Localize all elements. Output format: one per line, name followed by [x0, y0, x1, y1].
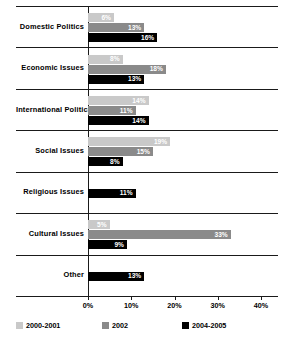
x-axis-tick [175, 296, 176, 300]
category-label: Cultural Issues [16, 230, 84, 237]
legend-item-2002[interactable]: 2002 [102, 322, 128, 329]
category-label: Domestic Politics [16, 23, 84, 30]
category-label: International Politics [16, 106, 84, 113]
bar-value-label: 14% [132, 117, 145, 124]
bar-2004-2005: 13% [88, 75, 144, 84]
x-axis-tick [261, 296, 262, 300]
bar-value-label: 5% [97, 222, 107, 229]
chart-row: Cultural Issues5%33%9% [16, 213, 278, 254]
legend-swatch [16, 322, 23, 329]
chart-row: Religious Issues11% [16, 172, 278, 213]
x-axis-tick-label: 10% [124, 302, 138, 309]
chart-row: Social Issues19%15%8% [16, 130, 278, 171]
x-axis-line [16, 296, 278, 297]
chart-row: Economic Issues8%18%13% [16, 47, 278, 88]
bar-2002: 13% [88, 23, 144, 32]
bar-2000-2001: 6% [88, 13, 114, 22]
bar-value-label: 11% [120, 190, 133, 197]
bar-2002: 15% [88, 147, 153, 156]
x-axis-tick [218, 296, 219, 300]
category-label: Economic Issues [16, 64, 84, 71]
bar-2004-2005: 9% [88, 240, 127, 249]
plot-area: Domestic Politics6%13%16%Economic Issues… [16, 6, 278, 296]
x-axis-tick-label: 20% [167, 302, 181, 309]
x-axis-tick-label: 30% [211, 302, 225, 309]
x-axis-tick [131, 296, 132, 300]
bar-2004-2005: 14% [88, 116, 149, 125]
bar-value-label: 19% [154, 139, 167, 146]
legend-swatch [182, 322, 189, 329]
bar-2000-2001: 5% [88, 220, 110, 229]
bar-value-label: 9% [114, 242, 124, 249]
bar-2000-2001: 19% [88, 137, 170, 146]
legend-label: 2004-2005 [192, 322, 226, 329]
category-label: Religious Issues [16, 188, 84, 195]
bar-value-label: 11% [120, 107, 133, 114]
bar-value-label: 14% [132, 97, 145, 104]
category-label: Social Issues [16, 147, 84, 154]
chart-legend: 2000-200120022004-2005 [16, 322, 284, 334]
bar-2002: 18% [88, 65, 166, 74]
bar-2004-2005: 16% [88, 33, 157, 42]
bar-2002: 11% [88, 106, 136, 115]
x-axis-tick-label: 0% [83, 302, 93, 309]
x-axis-tick-label: 40% [254, 302, 268, 309]
bar-value-label: 18% [150, 66, 163, 73]
bar-value-label: 8% [110, 159, 120, 166]
bar-2004-2005: 13% [88, 272, 144, 281]
bar-value-label: 13% [128, 24, 141, 31]
bar-value-label: 16% [141, 34, 154, 41]
chart-row: Domestic Politics6%13%16% [16, 6, 278, 47]
legend-swatch [102, 322, 109, 329]
bar-2004-2005: 8% [88, 157, 123, 166]
category-label: Other [16, 271, 84, 278]
bar-chart: Domestic Politics6%13%16%Economic Issues… [0, 0, 300, 338]
bar-value-label: 15% [137, 149, 150, 156]
bar-2004-2005: 11% [88, 189, 136, 198]
bar-2000-2001: 8% [88, 55, 123, 64]
chart-row: International Politics14%11%14% [16, 89, 278, 130]
bar-value-label: 13% [128, 273, 141, 280]
bar-2002: 33% [88, 230, 231, 239]
legend-item-2004-2005[interactable]: 2004-2005 [182, 322, 226, 329]
legend-item-2000-2001[interactable]: 2000-2001 [16, 322, 60, 329]
bar-value-label: 6% [101, 14, 111, 21]
legend-label: 2002 [112, 322, 128, 329]
legend-label: 2000-2001 [26, 322, 60, 329]
bar-value-label: 33% [215, 232, 228, 239]
bar-value-label: 13% [128, 76, 141, 83]
x-axis-tick [88, 296, 89, 300]
bar-value-label: 8% [110, 56, 120, 63]
bar-2000-2001: 14% [88, 96, 149, 105]
chart-row: Other13% [16, 255, 278, 296]
